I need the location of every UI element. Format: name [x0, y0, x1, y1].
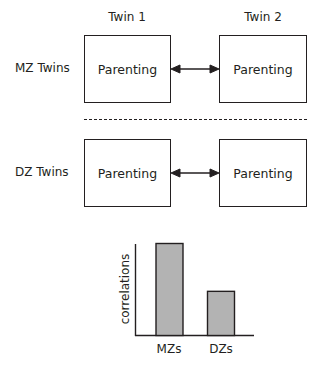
x-tick-mzs: MZs: [149, 342, 189, 356]
bar-mzs: [156, 244, 183, 336]
bar-chart: [135, 244, 254, 337]
y-axis-label: correlations: [118, 244, 132, 334]
bar-dzs: [208, 291, 235, 335]
x-tick-dzs: DZs: [201, 342, 241, 356]
mz-double-arrow-icon: [171, 65, 219, 73]
diagram-arrows: [0, 0, 316, 366]
dz-double-arrow-icon: [171, 169, 219, 177]
